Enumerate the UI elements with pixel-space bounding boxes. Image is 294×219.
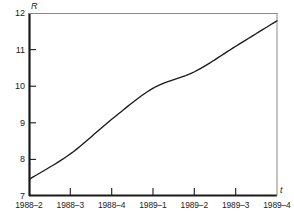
y-tick-label-12: 12 [3,9,25,18]
chart-plot-area [0,0,294,219]
y-tick-label-10: 10 [3,82,25,91]
x-tick-label-1989-3: 1989–3 [213,201,259,210]
x-tick-label-1989-2: 1989–2 [171,201,217,210]
data-series-line [30,21,278,179]
chart-figure: R t 12 11 10 9 8 7 1988–2 1988–3 1988–4 … [0,0,294,219]
y-tick-label-11: 11 [3,46,25,55]
x-tick-label-1989-1: 1989–1 [130,201,176,210]
y-axis-label: R [31,2,38,11]
x-axis-label: t [280,186,283,195]
x-tick-label-1988-4: 1988–4 [89,201,135,210]
x-tick-marks [70,188,235,195]
y-tick-marks [30,50,36,160]
x-tick-label-1988-3: 1988–3 [47,201,93,210]
y-tick-label-8: 8 [3,155,25,164]
x-tick-label-1989-4: 1989–4 [254,201,294,210]
x-tick-label-1988-2: 1988–2 [6,201,52,210]
y-tick-label-9: 9 [3,119,25,128]
